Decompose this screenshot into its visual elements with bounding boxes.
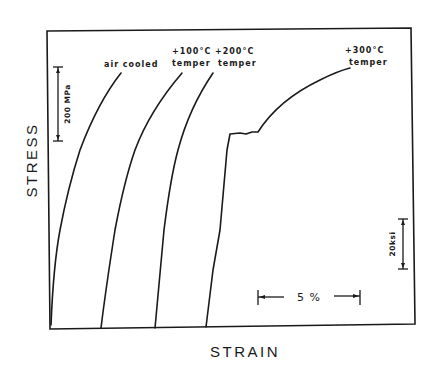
scale-label-ksi: 20ksi <box>388 232 397 257</box>
x-axis-title: STRAIN <box>210 343 280 360</box>
label-300c-line2: temper <box>349 58 388 67</box>
scale-bar-5-percent: 5 % <box>258 290 360 305</box>
plot-frame <box>47 28 415 329</box>
scale-label-strain: 5 % <box>297 291 321 304</box>
label-100c-line1: +100°C <box>172 47 211 56</box>
label-air-cooled: air cooled <box>104 60 159 69</box>
label-100c-line2: temper <box>172 59 211 68</box>
y-axis-title: STRESS <box>23 122 40 197</box>
scale-bar-200mpa: 200 MPa <box>53 67 72 141</box>
curve-air-cooled <box>51 73 121 325</box>
scale-label-mpa: 200 MPa <box>63 84 72 124</box>
curve-200c-temper <box>155 73 213 328</box>
stress-strain-chart: 200 MPa 20ksi 5 % air cooled +100°C temp… <box>0 0 441 372</box>
label-200c-line2: temper <box>218 59 257 68</box>
curve-100c-temper <box>101 73 182 328</box>
label-200c-line1: +200°C <box>215 47 254 56</box>
scale-bar-20ksi: 20ksi <box>388 219 408 269</box>
curve-300c-temper <box>206 68 350 327</box>
label-300c-line1: +300°C <box>345 46 384 55</box>
